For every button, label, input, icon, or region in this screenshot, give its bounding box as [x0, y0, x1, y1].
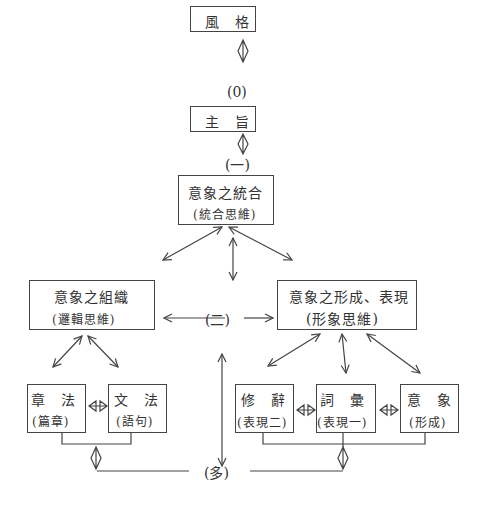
node-zhangfa-title: 章 法	[31, 389, 76, 409]
double-arrow-left-bracket	[91, 447, 101, 469]
bracket-left	[62, 432, 131, 444]
node-formation-title: 意象之形成、表現	[289, 286, 409, 306]
node-style-title: 風 格	[205, 11, 250, 31]
double-arrow-right-bracket	[338, 447, 348, 469]
node-cihui-title: 詞 彙	[320, 389, 365, 409]
arrow-integration-formation	[229, 227, 292, 260]
node-formation-subtitle: (形象思維)	[306, 308, 379, 328]
node-yixiang: 意 象 (形成)	[400, 384, 459, 433]
node-cihui-subtitle: (表現一)	[317, 413, 367, 430]
double-arrow-style-theme	[238, 40, 248, 62]
double-arrow-theme-integration	[238, 134, 248, 154]
arrow-formation-xiuci	[268, 334, 320, 366]
level-label-0: (0)	[227, 84, 247, 100]
level-label-1: (一)	[225, 154, 250, 174]
node-wenfa-subtitle: (語句)	[116, 412, 153, 429]
node-organization-title: 意象之組織	[54, 286, 129, 306]
node-xiuci-subtitle: (表現二)	[237, 413, 287, 430]
level-label-2: (二)	[205, 309, 230, 329]
node-xiuci: 修 辭 (表現二)	[235, 384, 294, 433]
node-theme: 主 旨	[190, 106, 256, 132]
arrow-organization-zhangfa	[53, 336, 82, 367]
node-wenfa: 文 法 (語句)	[108, 384, 167, 433]
arrow-formation-yixiang	[367, 334, 420, 373]
double-arrow-cihui-yixiang	[380, 405, 398, 415]
node-theme-title: 主 旨	[205, 111, 250, 131]
node-zhangfa-subtitle: (篇章)	[32, 412, 69, 429]
node-organization-subtitle: (邏輯思維)	[52, 310, 115, 327]
node-style: 風 格	[190, 6, 256, 32]
node-zhangfa: 章 法 (篇章)	[27, 384, 86, 433]
node-yixiang-subtitle: (形成)	[409, 413, 446, 430]
double-arrow-zhangfa-wenfa	[89, 401, 107, 411]
node-formation: 意象之形成、表現 (形象思維)	[277, 280, 417, 330]
arrow-integration-organization	[163, 227, 222, 260]
node-yixiang-title: 意 象	[407, 389, 452, 409]
node-integration: 意象之統合 (統合思維)	[178, 175, 274, 225]
node-integration-subtitle: (統合思維)	[193, 205, 256, 222]
node-xiuci-title: 修 辭	[241, 389, 286, 409]
node-wenfa-title: 文 法	[114, 389, 159, 409]
arrow-formation-cihui	[342, 334, 346, 373]
node-integration-title: 意象之統合	[188, 182, 263, 202]
level-label-many: (多)	[204, 462, 229, 482]
node-organization: 意象之組織 (邏輯思維)	[29, 280, 155, 330]
double-arrow-xiuci-cihui	[297, 405, 315, 415]
arrow-organization-wenfa	[88, 336, 118, 367]
node-cihui: 詞 彙 (表現一)	[316, 384, 376, 433]
bracket-right	[263, 432, 425, 444]
